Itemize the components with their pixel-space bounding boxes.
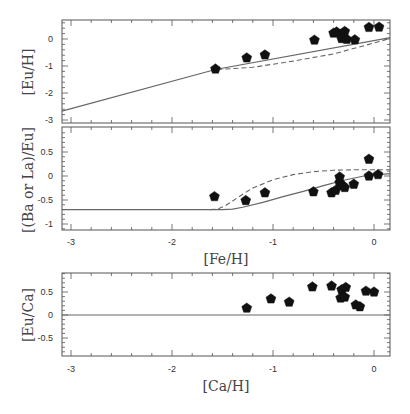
y-axis-label-bottom: [Eu/Ca] (20, 288, 36, 342)
pentagon-marker-icon (350, 35, 360, 44)
pentagon-marker-icon (364, 171, 374, 180)
ytick-label: -1 (45, 219, 53, 229)
ytick-label: 0 (48, 171, 53, 181)
xtick-label: 0 (371, 237, 376, 247)
panel-bottom-data-points (242, 281, 379, 313)
ytick-label: 0.5 (40, 287, 53, 297)
y-axis-label-top: [Eu/H] (20, 48, 36, 95)
xtick-label: -3 (67, 364, 75, 374)
pentagon-marker-icon (369, 287, 379, 296)
ytick-label: -3 (45, 115, 53, 125)
panel-top: 0 -1 -2 -3 [Eu/H] (20, 20, 390, 125)
pentagon-marker-icon (349, 179, 359, 188)
xtick-label: -2 (168, 237, 176, 247)
ytick-label: -0.5 (37, 195, 53, 205)
solid-model-curve (62, 38, 390, 112)
pentagon-marker-icon (242, 303, 252, 312)
pentagon-marker-icon (266, 294, 276, 303)
x-axis-label-middle: [Fe/H] (203, 251, 248, 267)
panel-top-model-lines (62, 38, 390, 112)
panel-middle: 0.5 0 -0.5 -1 -3 -2 -1 0 [Fe/H] [(Ba or … (20, 127, 390, 267)
pentagon-marker-icon (210, 191, 220, 200)
xtick-label: -2 (168, 364, 176, 374)
xtick-label: -1 (269, 237, 277, 247)
pentagon-marker-icon (307, 282, 317, 291)
xtick-label: -1 (269, 364, 277, 374)
panel-bottom: 0.5 0 -0.5 -3 -2 -1 0 [Ca/H] [Eu/Ca] (20, 273, 390, 394)
pentagon-marker-icon (341, 282, 351, 291)
pentagon-marker-icon (211, 64, 221, 73)
pentagon-marker-icon (310, 35, 320, 44)
pentagon-marker-icon (327, 281, 337, 290)
xtick-label: -3 (67, 237, 75, 247)
pentagon-marker-icon (364, 22, 374, 31)
pentagon-marker-icon (241, 195, 251, 204)
pentagon-marker-icon (284, 297, 294, 306)
pentagon-marker-icon (260, 50, 270, 59)
y-axis-label-middle: [(Ba or La)/Eu] (20, 127, 36, 233)
ytick-label: 0 (48, 34, 53, 44)
pentagon-marker-icon (373, 169, 383, 178)
ytick-label: -2 (45, 88, 53, 98)
x-axis-label-bottom: [Ca/H] (203, 378, 250, 394)
pentagon-marker-icon (364, 154, 374, 163)
pentagon-marker-icon (242, 53, 252, 62)
xtick-label: 0 (371, 364, 376, 374)
panel-middle-data-points (210, 154, 384, 205)
pentagon-marker-icon (260, 188, 270, 197)
figure: 0 -1 -2 -3 [Eu/H] 0.5 0 -0.5 -1 -3 -2 -1… (0, 0, 410, 414)
ytick-label: 0 (48, 310, 53, 320)
ytick-label: -1 (45, 61, 53, 71)
pentagon-marker-icon (374, 22, 384, 31)
ytick-label: -0.5 (37, 333, 53, 343)
ytick-label: 0.5 (40, 147, 53, 157)
